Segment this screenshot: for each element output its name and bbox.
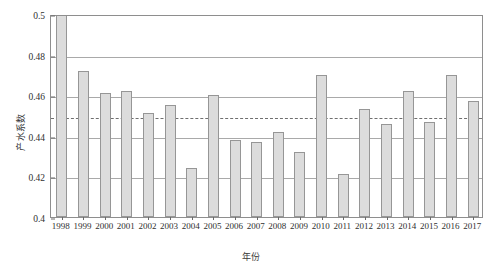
x-tick-mark [235, 217, 236, 220]
x-tick-label: 2005 [203, 221, 221, 231]
bar [143, 113, 154, 217]
y-tick-mark [51, 137, 55, 138]
y-axis-title: 产水系数 [14, 113, 27, 151]
x-tick-label: 2009 [290, 221, 308, 231]
bar [78, 71, 89, 217]
y-tick-mark [51, 97, 55, 98]
x-tick-label: 2003 [160, 221, 178, 231]
bar [381, 124, 392, 217]
bars-layer [51, 16, 482, 217]
x-tick-label: 2012 [355, 221, 373, 231]
y-tick-label: 0.48 [28, 52, 51, 62]
x-tick-mark [170, 217, 171, 220]
x-tick-label: 2017 [463, 221, 481, 231]
y-tick-mark [51, 178, 55, 179]
water-production-coefficient-bar-chart: 产水系数 0.40.420.440.460.480.5 199819992000… [0, 0, 503, 264]
plot-area: 0.40.420.440.460.480.5 [50, 15, 483, 218]
x-tick-mark [105, 217, 106, 220]
x-tick-mark [322, 217, 323, 220]
bar [338, 174, 349, 217]
x-tick-mark [213, 217, 214, 220]
x-tick-mark [473, 217, 474, 220]
y-tick-label: 0.44 [28, 133, 51, 143]
x-tick-label: 2004 [182, 221, 200, 231]
x-tick-mark [365, 217, 366, 220]
bar [468, 101, 479, 217]
x-tick-mark [148, 217, 149, 220]
y-tick-label: 0.5 [33, 11, 51, 21]
bar [446, 75, 457, 217]
x-tick-label: 2016 [442, 221, 460, 231]
bar [56, 16, 67, 217]
x-tick-label: 1998 [52, 221, 70, 231]
y-tick-label: 0.4 [33, 214, 51, 224]
x-tick-mark [343, 217, 344, 220]
x-tick-mark [257, 217, 258, 220]
bar [316, 75, 327, 217]
x-tick-label: 2015 [420, 221, 438, 231]
bar [359, 109, 370, 217]
bar [273, 132, 284, 217]
bar [424, 122, 435, 217]
bar [121, 91, 132, 217]
x-tick-label: 2011 [333, 221, 351, 231]
x-tick-mark [192, 217, 193, 220]
x-tick-mark [62, 217, 63, 220]
x-tick-label: 1999 [73, 221, 91, 231]
x-tick-label: 2001 [117, 221, 135, 231]
bar [208, 95, 219, 217]
x-tick-mark [430, 217, 431, 220]
x-tick-label: 2013 [377, 221, 395, 231]
x-tick-mark [127, 217, 128, 220]
x-axis-title: 年份 [0, 250, 503, 263]
x-tick-label: 2014 [398, 221, 416, 231]
x-tick-mark [278, 217, 279, 220]
x-tick-label: 2007 [247, 221, 265, 231]
x-tick-mark [300, 217, 301, 220]
x-tick-label: 2006 [225, 221, 243, 231]
bar [100, 93, 111, 217]
plot-inner [51, 16, 482, 217]
bar [186, 168, 197, 217]
x-tick-label: 2000 [95, 221, 113, 231]
y-tick-mark [51, 56, 55, 57]
x-tick-mark [452, 217, 453, 220]
x-axis-tick-labels: 1998199920002001200220032004200520062007… [50, 221, 483, 237]
bar [251, 142, 262, 217]
y-tick-mark [51, 219, 55, 220]
x-tick-label: 2010 [312, 221, 330, 231]
x-tick-mark [387, 217, 388, 220]
bar [294, 152, 305, 217]
x-tick-label: 2008 [268, 221, 286, 231]
x-tick-label: 2002 [138, 221, 156, 231]
y-tick-mark [51, 16, 55, 17]
x-tick-mark [408, 217, 409, 220]
y-tick-label: 0.46 [28, 92, 51, 102]
y-tick-label: 0.42 [28, 173, 51, 183]
bar [403, 91, 414, 217]
bar [230, 140, 241, 217]
x-tick-mark [83, 217, 84, 220]
bar [165, 105, 176, 217]
